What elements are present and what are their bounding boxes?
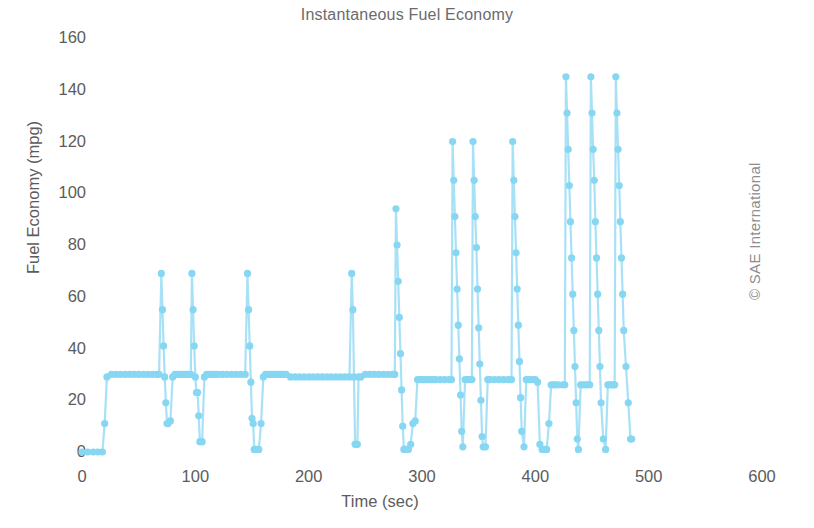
data-point-marker [613,109,620,116]
copyright-watermark: © SAE International [746,80,763,300]
data-point-marker [469,138,476,145]
data-point-marker [561,381,568,388]
data-point-marker [574,435,581,442]
data-point-marker [391,371,398,378]
plot-area [0,0,814,528]
data-point-marker [246,342,253,349]
data-point-marker [349,306,356,313]
data-point-marker [563,109,570,116]
data-point-marker [534,379,541,386]
data-point-marker [612,73,619,80]
data-point-marker [195,412,202,419]
data-point-marker [587,73,594,80]
data-point-marker [597,399,604,406]
data-point-marker [191,342,198,349]
series-line [82,77,632,452]
data-point-marker [99,448,106,455]
data-point-marker [407,441,414,448]
data-point-marker [516,358,523,365]
data-point-marker [399,423,406,430]
data-point-marker [575,446,582,453]
data-point-marker [570,327,577,334]
data-point-marker [512,249,519,256]
data-point-marker [459,443,466,450]
data-point-marker [622,363,629,370]
data-point-marker [245,306,252,313]
data-point-marker [257,420,264,427]
data-point-marker [518,428,525,435]
data-point-marker [199,438,206,445]
data-point-marker [448,376,455,383]
data-point-marker [458,428,465,435]
data-point-marker [619,291,626,298]
data-point-marker [600,435,607,442]
data-point-marker [476,360,483,367]
data-point-marker [545,420,552,427]
data-point-marker [449,138,456,145]
data-point-marker [188,270,195,277]
data-point-marker [247,379,254,386]
data-point-marker [616,182,623,189]
data-point-marker [473,244,480,251]
data-point-marker [573,399,580,406]
data-point-marker [593,254,600,261]
data-series-instantaneous-fuel-economy [78,73,635,455]
data-point-marker [457,391,464,398]
data-point-marker [591,177,598,184]
data-point-marker [160,342,167,349]
data-point-marker [475,324,482,331]
data-point-marker [472,213,479,220]
data-point-marker [161,373,168,380]
data-point-marker [567,218,574,225]
data-point-marker [477,397,484,404]
data-point-marker [101,420,108,427]
chart-figure: Instantaneous Fuel Economy Fuel Economy … [0,0,814,528]
data-point-marker [456,355,463,362]
data-point-marker [571,363,578,370]
data-point-marker [617,218,624,225]
data-point-marker [242,371,249,378]
data-point-marker [192,373,199,380]
data-point-marker [628,435,635,442]
data-point-marker [396,314,403,321]
data-point-marker [566,182,573,189]
data-point-marker [515,322,522,329]
data-point-marker [568,254,575,261]
data-point-marker [454,285,461,292]
data-point-marker [167,417,174,424]
data-point-marker [517,394,524,401]
data-point-marker [398,386,405,393]
data-point-marker [565,146,572,153]
data-point-marker [412,417,419,424]
data-point-marker [514,285,521,292]
data-point-marker [189,306,196,313]
data-point-marker [393,241,400,248]
data-point-marker [602,446,609,453]
data-point-marker [569,291,576,298]
data-point-marker [588,109,595,116]
data-point-marker [450,177,457,184]
data-point-marker [478,433,485,440]
data-point-marker [455,322,462,329]
data-point-marker [354,441,361,448]
data-point-marker [482,443,489,450]
data-point-marker [625,399,632,406]
data-point-marker [620,327,627,334]
data-point-marker [158,270,165,277]
data-point-marker [194,389,201,396]
data-point-marker [592,218,599,225]
data-point-marker [543,446,550,453]
data-point-marker [162,399,169,406]
data-point-marker [451,213,458,220]
data-point-marker [397,350,404,357]
data-point-marker [244,270,251,277]
data-point-marker [586,381,593,388]
data-point-marker [474,285,481,292]
data-point-marker [511,213,518,220]
data-point-marker [611,381,618,388]
data-point-marker [395,278,402,285]
data-point-marker [509,138,516,145]
data-point-marker [614,146,621,153]
data-point-marker [594,291,601,298]
data-point-marker [590,146,597,153]
